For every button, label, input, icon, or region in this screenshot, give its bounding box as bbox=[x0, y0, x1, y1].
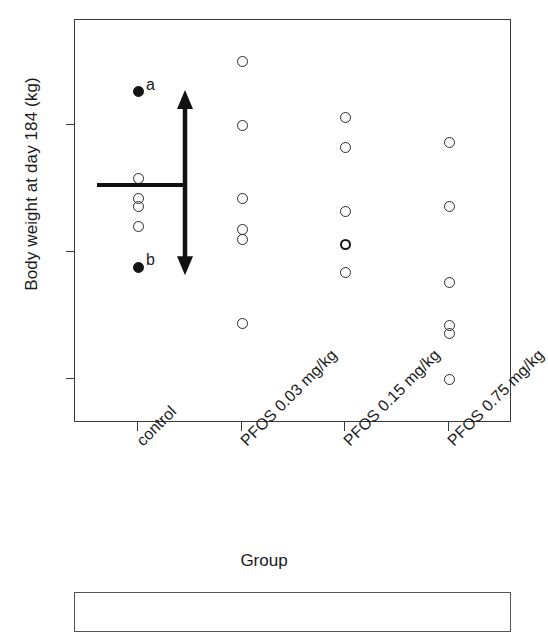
data-point bbox=[237, 234, 248, 245]
data-point bbox=[444, 374, 455, 385]
data-point bbox=[444, 328, 455, 339]
x-tick-mark bbox=[344, 422, 345, 431]
data-point bbox=[237, 56, 248, 67]
data-point bbox=[340, 206, 351, 217]
point-label-b: b bbox=[146, 251, 155, 269]
data-point bbox=[340, 112, 351, 123]
data-point bbox=[340, 239, 351, 250]
x-tick-mark bbox=[241, 422, 242, 431]
x-tick-mark bbox=[448, 422, 449, 431]
control-range-arrow bbox=[172, 90, 198, 275]
data-point bbox=[340, 142, 351, 153]
data-point bbox=[133, 173, 144, 184]
data-point bbox=[237, 224, 248, 235]
next-figure-panel bbox=[74, 592, 511, 632]
x-axis-title: Group bbox=[0, 551, 528, 571]
x-tick-mark bbox=[137, 422, 138, 431]
data-point bbox=[444, 137, 455, 148]
data-point bbox=[237, 120, 248, 131]
data-point bbox=[444, 277, 455, 288]
data-point bbox=[133, 221, 144, 232]
data-point bbox=[133, 262, 144, 273]
data-point bbox=[133, 86, 144, 97]
y-axis-title: Body weight at day 184 (kg) bbox=[22, 34, 42, 334]
data-point bbox=[340, 267, 351, 278]
point-label-a: a bbox=[146, 76, 155, 94]
data-point bbox=[237, 318, 248, 329]
data-point bbox=[237, 193, 248, 204]
data-point bbox=[133, 201, 144, 212]
data-point bbox=[444, 201, 455, 212]
plot-area: ab bbox=[74, 19, 511, 422]
